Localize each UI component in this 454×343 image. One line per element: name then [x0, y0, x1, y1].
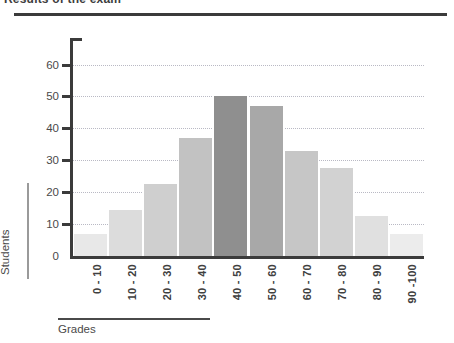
x-axis-line [70, 256, 424, 259]
x-tick-label: 70 - 80 [336, 264, 348, 300]
x-tick-label: 10 - 20 [126, 264, 138, 300]
plot-area: 0102030405060 0 - 1010 - 2020 - 3030 - 4… [73, 38, 424, 259]
chart-title: Results of the exam [4, 0, 121, 6]
x-tick-label-wrap: 80 - 90 [354, 264, 389, 320]
x-tick-label: 50 - 60 [266, 264, 278, 300]
bar [249, 106, 284, 256]
x-tick-label: 30 - 40 [196, 264, 208, 300]
y-axis-top-cap [70, 38, 82, 41]
x-tick-label-wrap: 10 - 20 [108, 264, 143, 320]
x-tick-label-wrap: 0 - 10 [73, 264, 108, 320]
bar [354, 216, 389, 256]
x-tick-label: 60 - 70 [301, 264, 313, 300]
bar [284, 151, 319, 256]
bar [108, 210, 143, 256]
y-tick-label: 60 [46, 59, 59, 71]
y-tick-label: 10 [46, 218, 59, 230]
title-divider [14, 13, 447, 16]
x-tick-label-wrap: 30 - 40 [178, 264, 213, 320]
chart-page: { "title": "Results of the exam", "axis_… [0, 0, 454, 343]
bar [389, 234, 424, 256]
x-tick-label-wrap: 90 -100 [389, 264, 424, 320]
chart-title-clip: Results of the exam [0, 0, 454, 7]
y-tick-label: 40 [46, 122, 59, 134]
y-tick-mark [62, 191, 71, 194]
x-tick-label: 90 -100 [406, 264, 418, 303]
x-tick-label-wrap: 40 - 50 [213, 264, 248, 320]
bar [319, 168, 354, 256]
y-tick-label: 30 [46, 154, 59, 166]
bar [143, 184, 178, 256]
gridline [73, 65, 424, 66]
gridline [73, 96, 424, 97]
x-axis-title: Grades [58, 323, 96, 335]
y-tick-label: 20 [46, 186, 59, 198]
x-tick-label-wrap: 50 - 60 [249, 264, 284, 320]
x-tick-label: 0 - 10 [91, 264, 103, 294]
y-tick-mark [62, 95, 71, 98]
x-tick-label-wrap: 60 - 70 [284, 264, 319, 320]
y-tick-label: 50 [46, 90, 59, 102]
y-axis-title: Students [0, 230, 11, 275]
y-tick-mark [62, 223, 71, 226]
y-tick-mark [62, 159, 71, 162]
y-axis-title-rule [27, 183, 29, 279]
x-tick-label-wrap: 20 - 30 [143, 264, 178, 320]
x-tick-label: 80 - 90 [371, 264, 383, 300]
x-tick-label: 20 - 30 [161, 264, 173, 300]
y-tick-label: 0 [53, 250, 59, 262]
x-axis-title-rule [58, 318, 210, 320]
bar [73, 234, 108, 256]
y-tick-mark [62, 127, 71, 130]
x-tick-label: 40 - 50 [231, 264, 243, 300]
y-tick-mark [62, 64, 71, 67]
x-tick-label-wrap: 70 - 80 [319, 264, 354, 320]
bar [178, 138, 213, 256]
bar [213, 96, 248, 256]
